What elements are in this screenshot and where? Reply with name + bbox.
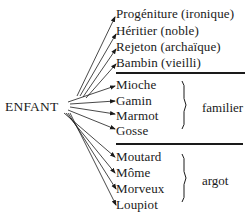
term-gamin: Gamin bbox=[116, 94, 152, 108]
category-argot: argot bbox=[202, 174, 228, 188]
term-moutard: Moutard bbox=[116, 150, 161, 164]
arrow-progeniture bbox=[77, 17, 115, 96]
term-gosse: Gosse bbox=[116, 124, 148, 138]
root-word: ENFANT bbox=[5, 100, 58, 114]
brace-argot bbox=[182, 154, 186, 202]
term-progeniture: Progéniture (ironique) bbox=[116, 7, 234, 21]
term-heritier: Héritier (noble) bbox=[116, 24, 199, 38]
term-mioche: Mioche bbox=[116, 78, 156, 92]
term-morveux: Morveux bbox=[116, 182, 164, 196]
arrow-heritier bbox=[80, 34, 116, 96]
arrow-marmot bbox=[70, 107, 115, 114]
term-bambin: Bambin (vieilli) bbox=[116, 56, 201, 70]
brace-familier bbox=[182, 81, 186, 129]
term-rejeton: Rejeton (archaïque) bbox=[116, 40, 221, 54]
arrow-mioche bbox=[68, 86, 115, 102]
term-marmot: Marmot bbox=[116, 109, 158, 123]
separator-line bbox=[116, 143, 243, 145]
arrow-gamin bbox=[70, 101, 115, 104]
arrow-morveux bbox=[68, 113, 116, 189]
separator-line bbox=[116, 72, 245, 74]
term-loupiot: Loupiot bbox=[116, 198, 158, 212]
category-familier: familier bbox=[202, 101, 243, 115]
term-mome: Môme bbox=[116, 166, 150, 180]
arrow-bambin bbox=[86, 64, 116, 98]
